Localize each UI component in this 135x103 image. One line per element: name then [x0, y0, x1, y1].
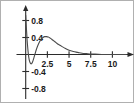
y-tick-label: -0.8	[31, 84, 46, 94]
y-tick-label: -0.4	[31, 67, 46, 77]
y-tick-label: 0.4	[31, 33, 43, 43]
x-axis-arrow-icon	[128, 52, 135, 57]
y-tick-label: 0.8	[31, 16, 43, 26]
x-tick-label: 10	[108, 59, 118, 69]
chart-frame: 2.557.510 0.80.4-0.4-0.8	[0, 0, 134, 103]
line-chart: 2.557.510 0.80.4-0.4-0.8	[1, 1, 134, 103]
x-tick-label: 7.5	[85, 59, 97, 69]
x-tick-label: 5	[67, 59, 72, 69]
x-axis-ticks: 2.557.510	[41, 51, 117, 68]
y-axis-arrow-icon	[23, 5, 28, 11]
